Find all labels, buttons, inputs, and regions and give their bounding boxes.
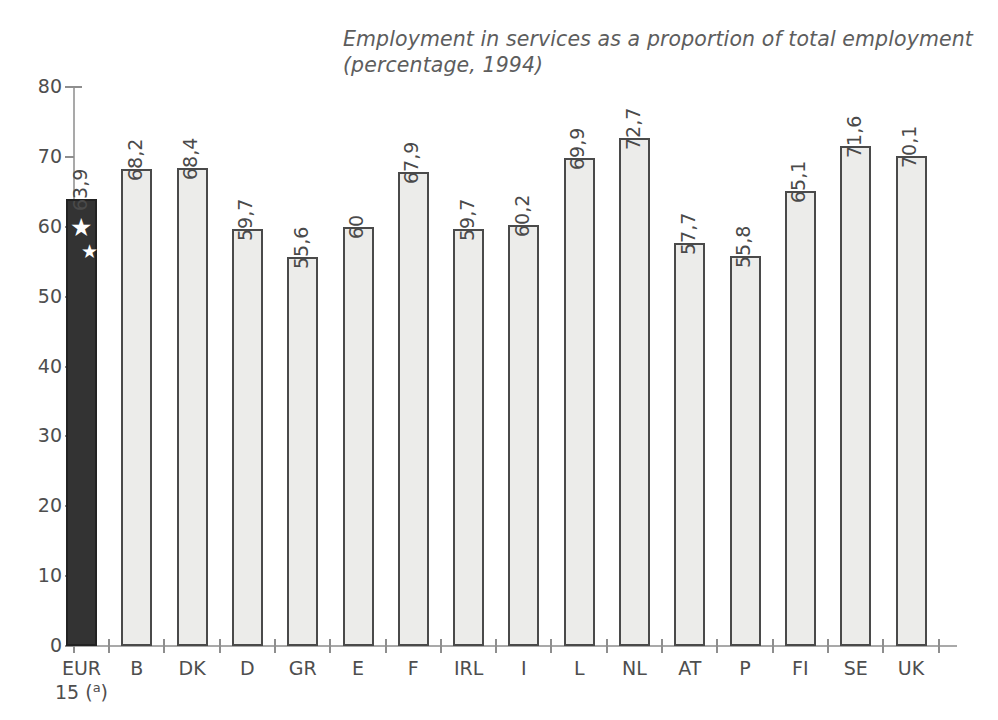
value-label-gr: 55,6 — [290, 227, 312, 269]
bar-nl[interactable] — [619, 138, 650, 646]
chart-subtitle: (percentage, 1994) — [343, 52, 983, 78]
value-label-irl: 59,7 — [456, 199, 478, 241]
bar-eur-15-a-[interactable]: ★★ — [66, 199, 97, 646]
category-label-uk: UK — [871, 657, 951, 679]
y-tick-label-10: 10 — [16, 564, 62, 586]
y-tick-70 — [65, 156, 74, 158]
x-tick-11 — [661, 639, 663, 653]
y-tick-label-0: 0 — [16, 634, 62, 656]
x-tick-9 — [550, 639, 552, 653]
x-tick-3 — [219, 639, 221, 653]
eu-star-icon: ★ — [70, 215, 92, 240]
x-tick-16 — [938, 639, 940, 653]
bar-dk[interactable] — [177, 168, 208, 646]
bar-d[interactable] — [232, 229, 263, 646]
value-label-i: 60,2 — [511, 195, 533, 237]
x-tick-13 — [772, 639, 774, 653]
value-label-at: 57,7 — [677, 213, 699, 255]
bar-se[interactable] — [840, 146, 871, 646]
value-label-d: 59,7 — [234, 199, 256, 241]
x-tick-12 — [716, 639, 718, 653]
value-label-f: 67,9 — [400, 141, 422, 183]
value-label-p: 55,8 — [732, 226, 754, 268]
bar-irl[interactable] — [453, 229, 484, 646]
y-tick-label-70: 70 — [16, 145, 62, 167]
value-label-uk: 70,1 — [898, 126, 920, 168]
value-label-b: 68,2 — [124, 139, 146, 181]
y-tick-80 — [65, 86, 82, 88]
y-tick-label-30: 30 — [16, 424, 62, 446]
bar-gr[interactable] — [287, 257, 318, 646]
value-label-l: 69,9 — [566, 127, 588, 169]
bar-b[interactable] — [121, 169, 152, 646]
value-label-dk: 68,4 — [179, 138, 201, 180]
value-label-fi: 65,1 — [787, 161, 809, 203]
bar-i[interactable] — [508, 225, 539, 646]
bar-chart: Employment in services as a proportion o… — [0, 0, 998, 720]
x-tick-10 — [606, 639, 608, 653]
bar-at[interactable] — [674, 243, 705, 646]
x-tick-4 — [274, 639, 276, 653]
x-tick-15 — [882, 639, 884, 653]
bar-p[interactable] — [730, 256, 761, 646]
bar-uk[interactable] — [896, 156, 927, 646]
bar-l[interactable] — [564, 158, 595, 646]
x-tick-2 — [163, 639, 165, 653]
x-tick-5 — [329, 639, 331, 653]
bar-f[interactable] — [398, 172, 429, 646]
bar-fi[interactable] — [785, 191, 816, 646]
x-tick-1 — [108, 639, 110, 653]
y-tick-label-50: 50 — [16, 285, 62, 307]
y-tick-label-80: 80 — [16, 75, 62, 97]
eu-star-icon: ★ — [81, 242, 98, 261]
value-label-se: 71,6 — [843, 115, 865, 157]
value-label-eur-15-a-: 63,9 — [69, 169, 91, 211]
y-tick-label-60: 60 — [16, 215, 62, 237]
x-tick-14 — [827, 639, 829, 653]
x-tick-6 — [385, 639, 387, 653]
value-label-nl: 72,7 — [622, 108, 644, 150]
y-tick-label-40: 40 — [16, 355, 62, 377]
x-tick-7 — [440, 639, 442, 653]
chart-title: Employment in services as a proportion o… — [343, 26, 983, 52]
value-label-e: 60 — [345, 215, 367, 239]
bar-e[interactable] — [343, 227, 374, 646]
chart-title-block: Employment in services as a proportion o… — [343, 26, 983, 78]
y-tick-label-20: 20 — [16, 494, 62, 516]
x-tick-8 — [495, 639, 497, 653]
